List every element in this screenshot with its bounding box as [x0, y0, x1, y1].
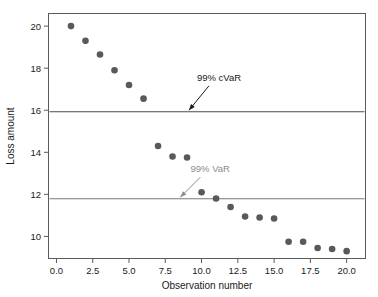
plot-frame [49, 14, 366, 259]
data-point [300, 238, 307, 245]
data-point [155, 143, 162, 150]
x-tick-label: 17.5 [301, 265, 320, 276]
y-tick-label: 20 [30, 21, 41, 32]
x-tick-label: 10.0 [192, 265, 211, 276]
annotation-arrow-cvar [189, 86, 209, 110]
y-tick-label: 14 [30, 147, 41, 158]
y-tick-label: 10 [30, 231, 41, 242]
data-point [111, 67, 118, 74]
data-point [256, 214, 263, 221]
data-point [343, 248, 350, 255]
data-point [242, 213, 249, 220]
x-tick-label: 7.5 [159, 265, 172, 276]
data-point [314, 245, 321, 252]
annotation-label-cvar: 99% cVaR [197, 72, 241, 83]
data-point [198, 189, 205, 196]
scatter-plot: 0.02.55.07.510.012.515.017.520.010121416… [0, 0, 378, 297]
x-tick-label: 12.5 [229, 265, 248, 276]
data-point [271, 215, 278, 222]
x-axis-title: Observation number [162, 280, 253, 291]
data-point [213, 195, 220, 202]
data-point [140, 95, 147, 102]
y-tick-label: 18 [30, 63, 41, 74]
data-point [126, 82, 133, 89]
data-point [329, 246, 336, 253]
x-tick-label: 0.0 [50, 265, 63, 276]
data-point [169, 153, 176, 160]
y-axis-title: Loss amount [5, 107, 16, 164]
data-point [184, 154, 191, 161]
data-point [97, 51, 104, 58]
data-point [285, 238, 292, 245]
chart-container: 0.02.55.07.510.012.515.017.520.010121416… [0, 0, 378, 297]
y-tick-label: 12 [30, 189, 41, 200]
x-tick-label: 2.5 [86, 265, 99, 276]
x-tick-label: 15.0 [265, 265, 284, 276]
data-point [82, 38, 89, 45]
x-tick-label: 5.0 [122, 265, 135, 276]
annotation-label-var: 99% VaR [191, 163, 231, 174]
x-tick-label: 20.0 [337, 265, 356, 276]
y-tick-label: 16 [30, 105, 41, 116]
data-point [68, 23, 75, 30]
data-point [227, 204, 234, 211]
annotation-arrow-var [180, 177, 200, 197]
